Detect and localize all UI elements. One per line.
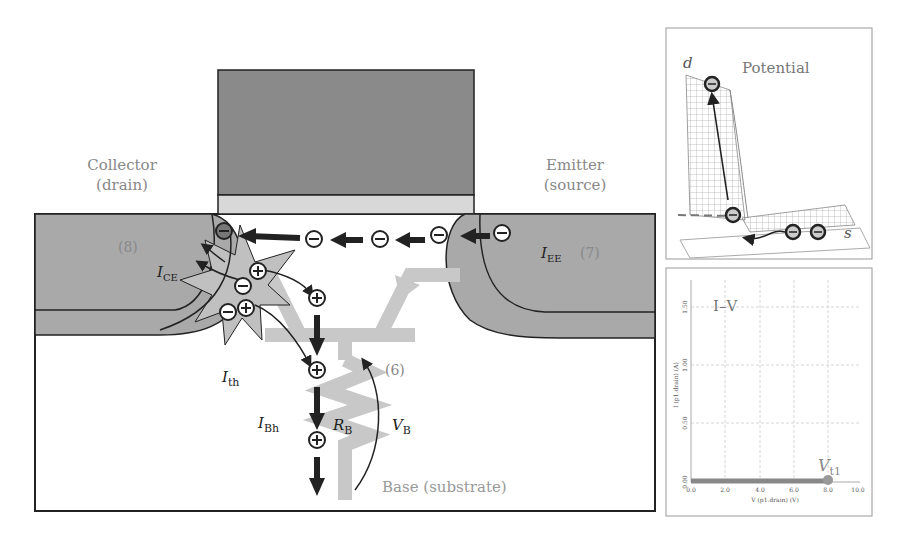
svg-text:4.0: 4.0 <box>755 486 765 493</box>
svg-text:2.0: 2.0 <box>720 486 730 493</box>
collector-label: Collector(drain) <box>87 156 157 194</box>
gate-oxide <box>218 195 474 214</box>
svg-text:6.0: 6.0 <box>789 486 799 493</box>
marker-6: (6) <box>385 362 405 378</box>
y-axis-label: I (p1.drain) (A) <box>672 362 680 408</box>
x-axis-label: V (p1.drain) (V) <box>750 496 798 504</box>
marker-8: (8) <box>118 239 138 255</box>
svg-text:10.0: 10.0 <box>851 486 865 493</box>
svg-text:8.0: 8.0 <box>823 486 833 493</box>
potential-title: Potential <box>742 59 810 77</box>
d-axis-label: d <box>683 54 693 72</box>
figure-canvas: Collector(drain) Emitter(source) (8) (7)… <box>0 0 902 538</box>
svg-text:0.50: 0.50 <box>681 416 688 430</box>
svg-text:1.00: 1.00 <box>681 358 688 372</box>
iv-panel: I–V Vt1 0.0 2.0 4.0 6.0 8.0 10.0 V (p1.d… <box>666 268 872 516</box>
marker-7: (7) <box>580 245 600 261</box>
s-axis-label: s <box>844 224 852 242</box>
potential-panel: Potential d s <box>666 28 872 259</box>
svg-text:1.50: 1.50 <box>681 300 688 314</box>
emitter-label: Emitter(source) <box>544 156 607 194</box>
iv-title: I–V <box>713 297 738 315</box>
gate-electrode <box>218 70 474 195</box>
source-diffusion <box>446 214 655 338</box>
base-label: Base (substrate) <box>382 478 507 496</box>
svg-text:0.00: 0.00 <box>681 475 688 489</box>
